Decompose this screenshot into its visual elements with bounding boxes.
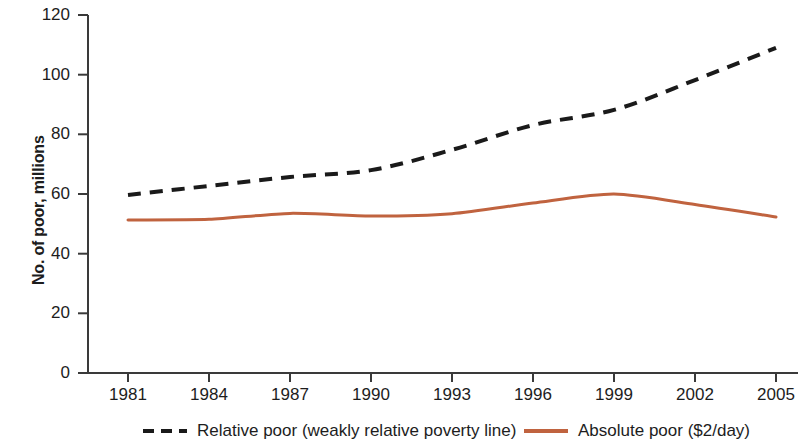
chart-legend: Relative poor (weakly relative poverty l…	[0, 418, 800, 448]
plot-area	[0, 0, 800, 448]
legend-label-absolute-poor: Absolute poor ($2/day)	[578, 421, 750, 441]
y-axis-ticks	[78, 15, 88, 373]
legend-entry-absolute-poor: Absolute poor ($2/day)	[524, 421, 750, 441]
legend-entry-relative-poor: Relative poor (weakly relative poverty l…	[143, 421, 516, 441]
dashed-black-line-icon	[143, 425, 187, 437]
poverty-line-chart: No. of poor, millions 120 100 80 60 40 2…	[0, 0, 800, 448]
x-axis-ticks	[128, 373, 776, 382]
solid-orange-line-icon	[524, 425, 568, 437]
series-line-absolute-poor	[128, 194, 776, 220]
series-line-relative-poor	[128, 48, 776, 195]
legend-label-relative-poor: Relative poor (weakly relative poverty l…	[197, 421, 516, 441]
